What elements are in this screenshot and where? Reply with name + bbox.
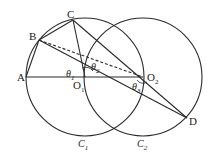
circle-label-c1: C1 [78,139,88,152]
point-label-o2: O2 [147,72,158,86]
segment-b-d [39,40,187,118]
segment-a-b [26,40,39,77]
geometry-figure [0,0,211,155]
point-label-o1: O1 [73,80,84,94]
point-label-d: D [189,116,197,127]
angle-label-theta3: θ3 [132,82,140,95]
point-label-b: B [29,31,36,42]
angle-label-theta2: θ2 [91,62,99,75]
point-label-c: C [67,9,74,20]
segment-b-c [39,20,73,40]
point-label-a: A [17,72,25,83]
angle-label-theta1: θ1 [66,69,74,82]
circle-label-c2: C2 [137,139,147,152]
